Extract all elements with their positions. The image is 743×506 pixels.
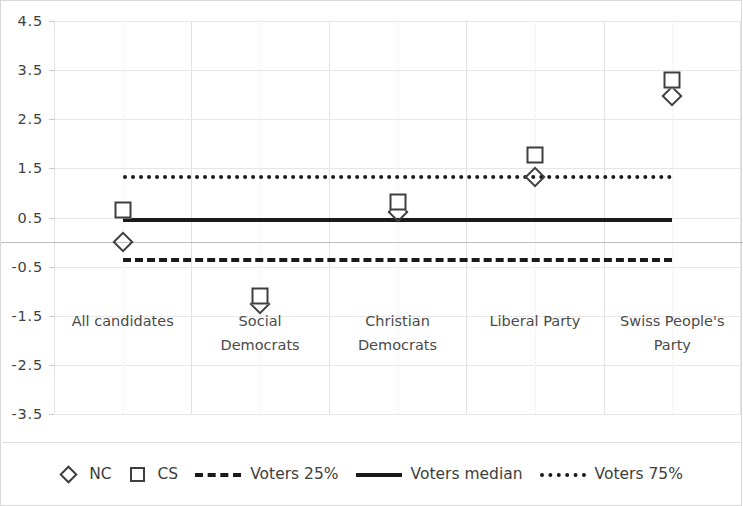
- data-point-nc-3: [524, 167, 545, 188]
- x-axis-category-label: ChristianDemocrats: [329, 309, 466, 373]
- data-point-nc-0: [112, 231, 133, 252]
- data-point-cs-3: [526, 146, 543, 163]
- y-axis-tick-label: -0.5: [12, 259, 44, 275]
- y-axis-tick-label: -2.5: [12, 357, 44, 373]
- legend-entry[interactable]: NC: [60, 465, 111, 483]
- legend-entry[interactable]: Voters 75%: [540, 465, 683, 483]
- x-axis-category-label-line: Christian: [333, 309, 462, 333]
- reference-line-voters-75: [123, 175, 673, 179]
- x-axis-category-label-line: Social: [195, 309, 324, 333]
- x-axis-category-label-line: Democrats: [333, 333, 462, 357]
- y-axis: 4.53.52.51.50.5-0.5-1.5-2.5-3.5: [1, 1, 54, 506]
- dotted-line-icon: [540, 466, 586, 482]
- dashed-line-icon: [195, 466, 241, 482]
- legend-label: Voters 75%: [595, 465, 683, 483]
- dashed-line-icon-shape: [195, 473, 241, 477]
- legend-label: Voters median: [411, 465, 523, 483]
- chart-legend: NCCSVoters 25%Voters medianVoters 75%: [2, 442, 741, 505]
- x-axis-category-label: Liberal Party: [466, 309, 603, 373]
- legend-label: Voters 25%: [250, 465, 338, 483]
- data-point-cs-1: [252, 288, 269, 305]
- y-axis-tick-label: -1.5: [12, 308, 44, 324]
- legend-label: NC: [89, 465, 111, 483]
- square-marker-icon: [129, 466, 149, 482]
- x-axis-category-label-line: Swiss People's: [608, 309, 737, 333]
- x-axis-category-label: All candidates: [54, 309, 191, 373]
- diamond-marker-icon-shape: [59, 465, 77, 483]
- y-axis-tick-label: 1.5: [18, 160, 43, 176]
- y-axis-tick-label: 2.5: [18, 111, 43, 127]
- x-axis-category-label: Swiss People'sParty: [604, 309, 741, 373]
- solid-line-icon: [356, 466, 402, 482]
- data-point-cs-4: [664, 71, 681, 88]
- x-axis-category-label-line: Liberal Party: [470, 309, 599, 333]
- x-axis-category-label-line: Democrats: [195, 333, 324, 357]
- data-point-cs-0: [114, 202, 131, 219]
- x-axis-category-label: SocialDemocrats: [191, 309, 328, 373]
- legend-label: CS: [158, 465, 179, 483]
- legend-entry[interactable]: Voters median: [356, 465, 523, 483]
- x-axis-category-label-line: All candidates: [58, 309, 187, 333]
- y-axis-tick-label: -3.5: [12, 406, 44, 422]
- y-axis-tick-label: 4.5: [18, 13, 43, 29]
- legend-entry[interactable]: Voters 25%: [195, 465, 338, 483]
- x-axis-categories: All candidatesSocialDemocratsChristianDe…: [54, 309, 741, 373]
- diamond-marker-icon: [60, 466, 80, 482]
- gridline-horizontal-minor: [54, 414, 741, 415]
- y-axis-tick-label: 3.5: [18, 62, 43, 78]
- reference-line-voters-25: [123, 258, 673, 262]
- x-axis-category-label-line: Party: [608, 333, 737, 357]
- solid-line-icon-shape: [356, 473, 402, 477]
- y-axis-tick-label: 0.5: [18, 210, 43, 226]
- legend-entry[interactable]: CS: [129, 465, 179, 483]
- square-marker-icon-shape: [130, 467, 145, 482]
- data-point-cs-2: [389, 193, 406, 210]
- dotted-line-icon-shape: [540, 473, 586, 477]
